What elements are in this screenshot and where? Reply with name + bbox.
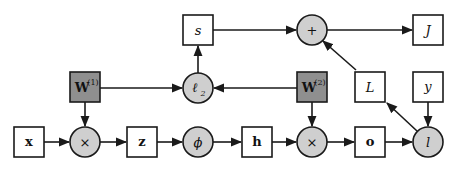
node-x-label: x xyxy=(25,134,33,149)
node-L: L xyxy=(355,72,385,102)
edge-L-plus xyxy=(323,41,356,70)
node-x: x xyxy=(14,127,44,157)
node-plus: + xyxy=(297,15,327,45)
node-y-label: y xyxy=(423,79,432,94)
node-l2-label: ℓ xyxy=(192,80,198,95)
node-o: o xyxy=(355,127,385,157)
node-W1-superscript: (1) xyxy=(87,78,98,87)
node-L-label: L xyxy=(365,80,375,95)
node-W2-superscript: (2) xyxy=(314,78,325,87)
node-y: y xyxy=(413,72,443,102)
node-phi-label: ϕ xyxy=(194,135,203,150)
node-mul1-label: × xyxy=(80,135,91,150)
node-W2: W (2) xyxy=(297,72,327,102)
node-l2-subscript: 2 xyxy=(199,89,205,98)
node-l: l xyxy=(413,127,443,157)
node-mul2: × xyxy=(297,127,327,157)
node-W1: W (1) xyxy=(70,72,100,102)
node-z: z xyxy=(127,127,157,157)
edge-l-L xyxy=(387,103,417,131)
node-s-label: s xyxy=(195,23,202,38)
node-z-label: z xyxy=(138,134,145,149)
node-h-label: h xyxy=(252,134,262,149)
node-mul2-label: × xyxy=(307,135,318,150)
node-plus-label: + xyxy=(307,23,318,38)
node-o-label: o xyxy=(366,134,375,149)
computational-graph: s + J W (1) ℓ 2 W (2) L y x × xyxy=(0,0,460,170)
node-J: J xyxy=(413,15,443,45)
node-mul1: × xyxy=(70,127,100,157)
node-l2: ℓ 2 xyxy=(183,73,213,103)
node-phi: ϕ xyxy=(183,127,213,157)
node-h: h xyxy=(242,127,272,157)
node-l-label: l xyxy=(426,135,430,150)
node-s: s xyxy=(183,15,213,45)
